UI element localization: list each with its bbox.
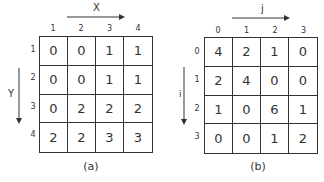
j-axis-arrow-icon	[232, 15, 290, 21]
matrix-cell: 0	[233, 96, 261, 125]
matrix-cell: 4	[233, 67, 261, 96]
j-axis-label: j	[261, 3, 264, 14]
column-label: 1	[232, 26, 261, 35]
matrix-cell: 0	[289, 38, 317, 67]
matrix-cell: 2	[289, 124, 317, 153]
matrix-cell: 0	[289, 67, 317, 96]
column-label: 0	[204, 26, 232, 35]
panel-b: j 0 1 2 3 0 1 2 3 i 4 2 1 0 2 4 0 0 1 0 …	[0, 0, 324, 182]
matrix-cell: 4	[205, 38, 233, 67]
row-label: 3	[192, 132, 202, 141]
matrix-cell: 6	[261, 96, 289, 125]
column-label: 2	[261, 26, 289, 35]
caption-b: (b)	[238, 160, 278, 173]
matrix-cell: 0	[233, 124, 261, 153]
matrix-grid-b: 4 2 1 0 2 4 0 0 1 0 6 1 0 0 1 2	[204, 37, 318, 154]
matrix-cell: 1	[289, 96, 317, 125]
matrix-cell: 0	[261, 67, 289, 96]
matrix-cell: 1	[205, 96, 233, 125]
matrix-cell: 0	[205, 124, 233, 153]
matrix-cell: 2	[205, 67, 233, 96]
matrix-cell: 2	[233, 38, 261, 67]
matrix-cell: 1	[261, 38, 289, 67]
column-label: 3	[289, 26, 318, 35]
row-label: 2	[192, 104, 202, 113]
row-label: 1	[192, 75, 202, 84]
row-label: 0	[192, 47, 202, 56]
matrix-cell: 1	[261, 124, 289, 153]
i-axis-arrow-icon	[181, 67, 187, 125]
